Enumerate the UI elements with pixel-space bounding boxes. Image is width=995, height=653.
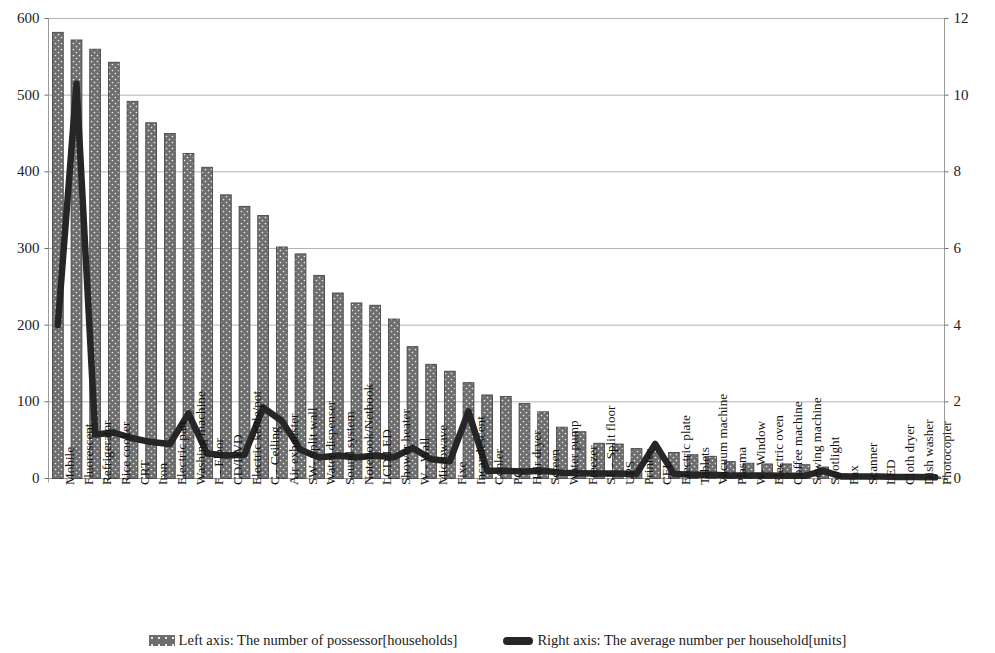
y-tick-left: 600 [0, 11, 40, 26]
x-tick-label: CFL [660, 460, 673, 484]
x-tick-label: Notebook/Netbook [362, 383, 375, 484]
x-tick-label: Iron [156, 463, 169, 485]
legend-label-bars: Left axis: The number of possessor[house… [179, 632, 458, 649]
x-tick-label: Electric plate [679, 415, 692, 485]
x-tick-label: Plasma [735, 446, 748, 484]
y-tick-left: 200 [0, 318, 40, 333]
y-tick-right: 0 [954, 471, 962, 486]
x-tick-label: Rice cooker [119, 421, 132, 484]
x-tick-label: Fluorescent [82, 423, 95, 485]
bar [108, 62, 119, 478]
x-tick-label: C - Ceiling [268, 426, 281, 485]
x-tick-label: Electric pan [175, 421, 188, 484]
bar [146, 123, 157, 479]
x-tick-label: Air exhauster [287, 413, 300, 484]
x-tick-label: Electric oven [772, 415, 785, 485]
x-tick-label: LED [884, 459, 897, 485]
x-tick-label: Mobile [63, 446, 76, 484]
x-tick-label: Cooler [492, 449, 505, 485]
y-tick-right: 8 [954, 164, 962, 179]
x-tick-label: Water dispenser [324, 400, 337, 484]
x-tick-label: Washing machine [194, 391, 207, 485]
x-tick-label: Sound system [343, 411, 356, 485]
x-tick-label: Water pump [567, 420, 580, 485]
bar-series-swatch-icon [149, 635, 175, 646]
x-tick-label: LCD/LED [380, 429, 393, 485]
x-tick-label: Printer [642, 449, 655, 485]
legend-item-line: Right axis: The average number per house… [503, 632, 846, 649]
x-tick-label: UPS [623, 460, 636, 484]
chart-plot-area [0, 0, 995, 653]
legend-item-bars: Left axis: The number of possessor[house… [149, 632, 458, 649]
x-tick-label: Incandescent [474, 416, 487, 485]
y-tick-right: 12 [954, 11, 969, 26]
x-tick-label: Scanner [866, 442, 879, 484]
x-tick-label: Sewing machine [810, 397, 823, 485]
y-tick-left: 100 [0, 394, 40, 409]
x-tick-label: Shower heater [399, 409, 412, 485]
x-tick-label: Vacuum machine [716, 393, 729, 484]
y-tick-left: 300 [0, 241, 40, 256]
chart-container: 0100200300400500600 024681012 MobileFluo… [0, 0, 995, 653]
x-tick-label: Fixe [455, 461, 468, 484]
x-tick-label: Refrigerator [100, 420, 113, 484]
x-tick-label: SW- Split wall [306, 407, 319, 485]
x-tick-label: Freezer [586, 445, 599, 485]
line-series-swatch-icon [503, 637, 533, 645]
y-tick-right: 4 [954, 318, 962, 333]
legend-label-line: Right axis: The average number per house… [537, 632, 846, 649]
y-tick-right: 6 [954, 241, 962, 256]
x-tick-label: SF - Split floor [604, 405, 617, 485]
x-tick-label: Coffee machine [791, 401, 804, 485]
x-tick-label: CD/DVD [231, 434, 244, 485]
y-tick-left: 500 [0, 88, 40, 103]
y-tick-right: 2 [954, 394, 962, 409]
x-tick-label: Hair dryer [530, 430, 543, 485]
x-tick-label: Dish washer [922, 419, 935, 485]
x-tick-label: W- Window [754, 420, 767, 484]
x-tick-label: Cloth dryer [903, 424, 916, 484]
x-tick-label: Screen [548, 449, 561, 485]
bar-series [52, 32, 940, 478]
x-tick-label: Photocopier [940, 421, 953, 485]
x-tick-label: PC [511, 468, 524, 484]
x-tick-label: Electric kettle/pot [250, 390, 263, 484]
x-tick-label: CRT [138, 460, 151, 485]
x-tick-label: Tablets [698, 447, 711, 485]
chart-legend: Left axis: The number of possessor[house… [0, 628, 995, 653]
x-tick-label: Spotlight [828, 436, 841, 484]
y-tick-left: 0 [0, 471, 40, 486]
x-tick-label: F - Floor [212, 438, 225, 485]
x-tick-label: W - Wall [418, 437, 431, 485]
x-tick-label: Fax [847, 465, 860, 485]
x-tick-label: Microwave [436, 424, 449, 484]
y-tick-left: 400 [0, 164, 40, 179]
y-tick-right: 10 [954, 88, 969, 103]
